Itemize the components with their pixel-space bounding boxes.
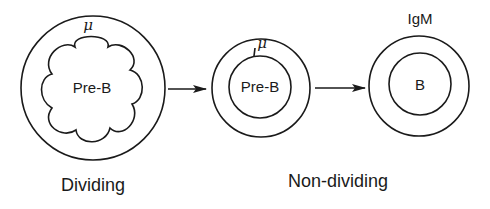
nucleus-label: Pre-B xyxy=(241,78,279,95)
nucleus-label: Pre-B xyxy=(73,79,111,96)
dividing-pre-b-cell: Pre-B μ xyxy=(21,16,165,160)
igm-label: IgM xyxy=(407,10,432,27)
mu-chain-label: μ xyxy=(257,34,267,52)
b-cell-development-diagram: Pre-B μ Pre-B μ B IgM Dividing Non-divid… xyxy=(0,0,490,209)
mu-pointer-line xyxy=(254,48,255,56)
nondividing-pre-b-cell: Pre-B μ xyxy=(212,34,310,137)
mu-chain-label: μ xyxy=(83,16,93,34)
dividing-stage-label: Dividing xyxy=(61,175,125,195)
b-cell: B IgM xyxy=(369,10,469,136)
non-dividing-stage-label: Non-dividing xyxy=(288,171,388,191)
nucleus-label: B xyxy=(415,76,425,93)
